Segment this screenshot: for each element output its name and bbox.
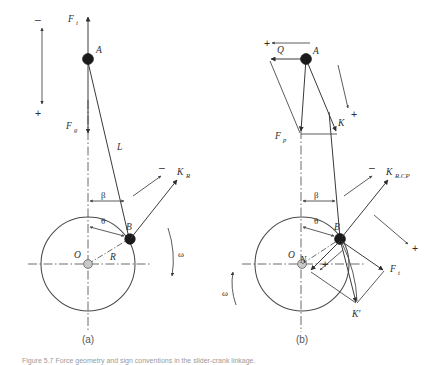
panel-b-caption-label: (b)	[296, 334, 308, 345]
panel-b-label-point-a: A	[312, 46, 319, 56]
panel-a-label-force-kr: K	[176, 167, 184, 177]
panel-a-point-o-node	[84, 260, 93, 269]
panel-b-point-a-node	[301, 54, 312, 65]
figure-root: – + F i F g A L	[0, 0, 433, 365]
panel-b-label-plus-center: +	[322, 258, 328, 270]
panel-b-label-force-n: N	[299, 255, 307, 265]
panel-a-force-kr-arrow	[131, 180, 177, 238]
panel-b-label-point-b: B	[334, 222, 340, 232]
panel-a-connecting-rod	[88, 62, 129, 238]
panel-b-plus-right-arrow	[338, 65, 348, 108]
panel-b-angle-theta-indicator	[303, 227, 334, 236]
panel-a-label-angle-theta: θ	[101, 216, 105, 226]
panel-a-label-force-kr-sub: R	[185, 172, 191, 179]
panel-b-label-omega: ω	[222, 288, 228, 298]
panel-a-label-force-gravity-sub: g	[74, 126, 78, 133]
panel-a-label-radius: R	[109, 252, 116, 262]
panel-b-force-kprime-arc	[342, 243, 357, 301]
panel-a-omega-arc	[168, 228, 173, 276]
panel-a-label-angle-beta: β	[101, 190, 106, 200]
panel-b-label-plus-top: +	[264, 37, 270, 49]
panel-a-caption-label: (a)	[82, 334, 94, 345]
panel-b-connecting-rod	[329, 112, 340, 238]
panel-b-label-plus-right: +	[351, 108, 357, 120]
figure-svg: – + F i F g A L	[0, 0, 433, 365]
panel-b-label-angle-beta: β	[314, 190, 319, 200]
panel-b-b-parallelogram-side-right	[357, 271, 384, 303]
panel-b-minus-direction-arrow	[344, 176, 372, 196]
panel-b-label-force-kprime: K'	[351, 309, 361, 319]
panel-b-label-force-krcp-sub: R.CP	[394, 172, 410, 179]
panel-b-label-force-k: K	[337, 118, 345, 128]
panel-a-label-force-inertia-sub: i	[76, 19, 78, 26]
panel-b-label-force-ft-sub: t	[398, 269, 401, 276]
panel-b-force-k-arrow	[306, 59, 336, 131]
panel-b-label-point-o: O	[288, 250, 295, 260]
panel-b-plus-far-right-arrow	[374, 215, 408, 244]
panel-b-label-minus: –	[369, 161, 375, 173]
panel-b-force-kprime-arrow	[341, 243, 356, 302]
panel-a-crank-radius	[88, 239, 129, 264]
panel-a-label-omega: ω	[178, 249, 184, 259]
panel-b-label-force-q: Q	[277, 45, 284, 55]
panel-a-minus-direction-arrow	[133, 176, 161, 196]
panel-a-label-force-inertia: F	[67, 14, 74, 24]
panel-a-label-conrod-length: L	[116, 142, 122, 152]
panel-b-force-krcp-arrow	[342, 180, 388, 237]
panel-b-parallelogram-side-left	[270, 61, 300, 133]
panel-a-label-point-b: B	[126, 222, 132, 232]
panel-a-point-a-node	[83, 54, 94, 65]
panel-a-label-point-o: O	[74, 250, 81, 260]
panel-a: – + F i F g A L	[28, 13, 191, 345]
panel-b-label-plus-far-right: +	[412, 242, 418, 254]
panel-b: + + A Q K F p O	[222, 37, 418, 345]
figure-caption: Figure 5.7 Force geometry and sign conve…	[22, 357, 256, 365]
panel-a-label-point-a: A	[95, 45, 102, 55]
panel-b-label-force-fp: F	[274, 131, 281, 141]
panel-a-label-minus: –	[159, 161, 165, 173]
panel-b-label-angle-theta: θ	[314, 216, 318, 226]
panel-b-omega-arc	[232, 272, 236, 305]
sign-axis-positive-label: +	[35, 107, 41, 119]
panel-b-label-force-krcp: K	[385, 167, 393, 177]
panel-a-label-force-gravity: F	[65, 121, 72, 131]
sign-axis-negative-label: –	[35, 13, 41, 25]
panel-a-sign-axis: – +	[35, 13, 42, 119]
panel-b-label-force-fp-sub: p	[282, 136, 287, 143]
panel-b-force-fp-arrow	[301, 59, 306, 131]
panel-b-label-force-ft: F	[389, 264, 396, 274]
